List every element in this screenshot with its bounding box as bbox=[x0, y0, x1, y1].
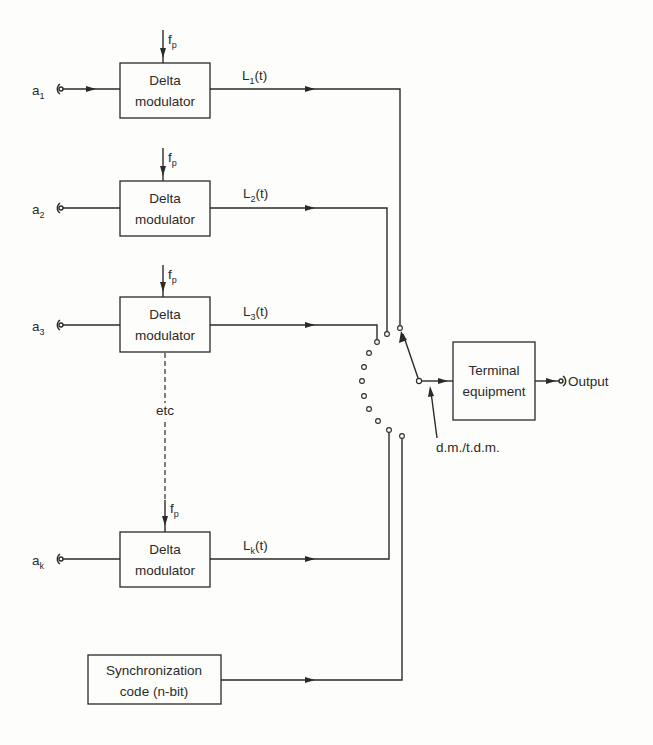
delta-modulator-block bbox=[120, 63, 210, 118]
output-label: Output bbox=[568, 374, 609, 389]
channel-1: a1 fp Delta modulator L1(t) bbox=[32, 30, 400, 327]
block-label-line2: modulator bbox=[135, 328, 196, 343]
arrow-icon bbox=[305, 86, 315, 92]
arrow-icon bbox=[305, 556, 315, 562]
arrow-icon bbox=[86, 86, 96, 92]
block-label-line1: Delta bbox=[149, 542, 181, 557]
leader-arrow-icon bbox=[428, 386, 434, 397]
terminal-equipment-block: Terminal equipment Output bbox=[453, 342, 609, 420]
delta-modulator-block bbox=[120, 297, 210, 352]
switch-label: d.m./t.d.m. bbox=[436, 440, 500, 455]
terminal-label-line1: Terminal bbox=[468, 363, 519, 378]
channel-k: ak fp Delta modulator Lk(t) bbox=[32, 433, 389, 587]
output-label-L1: L1(t) bbox=[242, 68, 267, 86]
output-label-L2: L2(t) bbox=[243, 186, 268, 204]
block-label-line1: Delta bbox=[149, 191, 181, 206]
terminal-label-line2: equipment bbox=[462, 384, 525, 399]
contact bbox=[367, 351, 372, 356]
arrow-icon bbox=[305, 322, 315, 328]
continuation-label: etc bbox=[156, 403, 174, 418]
contact-2 bbox=[385, 332, 390, 337]
input-label-a1: a1 bbox=[32, 83, 45, 101]
sync-label-line2: code (n-bit) bbox=[120, 684, 188, 699]
contact-sync bbox=[400, 434, 405, 439]
arrow-icon bbox=[305, 677, 315, 683]
block-label-line1: Delta bbox=[149, 307, 181, 322]
input-terminal-icon bbox=[57, 84, 63, 94]
output-label-L3: L3(t) bbox=[243, 304, 268, 322]
clock-arrow-icon bbox=[162, 516, 168, 526]
clock-label-fp: fp bbox=[168, 150, 177, 168]
delta-modulation-tdm-diagram: a1 fp Delta modulator L1(t) a2 fp Delta … bbox=[0, 0, 653, 745]
delta-modulator-block bbox=[120, 532, 210, 587]
input-terminal-icon bbox=[57, 320, 63, 330]
sync-label-line1: Synchronization bbox=[106, 663, 202, 678]
switch-pivot bbox=[416, 378, 421, 383]
contact-1 bbox=[398, 326, 403, 331]
contact-k bbox=[387, 428, 392, 433]
arrow-icon bbox=[546, 378, 556, 384]
terminal-equipment-box bbox=[453, 342, 535, 420]
block-label-line2: modulator bbox=[135, 94, 196, 109]
output-terminal-icon bbox=[559, 376, 566, 386]
contact-3 bbox=[375, 340, 380, 345]
clock-arrow-icon bbox=[160, 48, 166, 58]
input-terminal-icon bbox=[57, 554, 63, 564]
input-label-a2: a2 bbox=[32, 202, 45, 220]
clock-label-fp: fp bbox=[168, 267, 177, 285]
delta-modulator-block bbox=[120, 181, 210, 236]
clock-label-fp: fp bbox=[170, 501, 179, 519]
arrow-icon bbox=[305, 205, 315, 211]
switch-label-leader bbox=[431, 392, 437, 438]
contact bbox=[362, 365, 367, 370]
block-label-line2: modulator bbox=[135, 212, 196, 227]
block-label-line2: modulator bbox=[135, 563, 196, 578]
clock-label-fp: fp bbox=[168, 32, 177, 50]
contact bbox=[376, 419, 381, 424]
channel-3: a3 fp Delta modulator L3(t) bbox=[32, 265, 377, 352]
contact bbox=[360, 379, 365, 384]
block-label-line1: Delta bbox=[149, 73, 181, 88]
input-label-ak: ak bbox=[32, 553, 45, 571]
input-terminal-icon bbox=[57, 203, 63, 213]
contact bbox=[362, 394, 367, 399]
clock-arrow-icon bbox=[160, 282, 166, 292]
arrow-icon bbox=[438, 378, 448, 384]
input-label-a3: a3 bbox=[32, 319, 45, 337]
output-label-Lk: Lk(t) bbox=[243, 538, 268, 556]
contact bbox=[367, 407, 372, 412]
clock-arrow-icon bbox=[160, 166, 166, 176]
